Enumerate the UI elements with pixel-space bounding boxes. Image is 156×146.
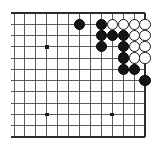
- white-stone[interactable]: [129, 41, 140, 52]
- star-point: [45, 45, 49, 49]
- white-stone[interactable]: [118, 19, 129, 30]
- star-point: [45, 113, 49, 117]
- black-stone[interactable]: [118, 64, 129, 75]
- black-stone[interactable]: [107, 30, 118, 41]
- black-stone[interactable]: [74, 19, 85, 30]
- white-stone[interactable]: [139, 41, 150, 52]
- black-stone[interactable]: [96, 19, 107, 30]
- black-stone[interactable]: [118, 30, 129, 41]
- white-stone[interactable]: [139, 30, 150, 41]
- white-stone[interactable]: [129, 52, 140, 63]
- black-stone[interactable]: [129, 64, 140, 75]
- white-stone[interactable]: [129, 19, 140, 30]
- go-diagram: [0, 0, 156, 146]
- white-stone[interactable]: [139, 19, 150, 30]
- star-point: [110, 113, 114, 117]
- white-stone[interactable]: [139, 52, 150, 63]
- black-stone[interactable]: [139, 75, 150, 86]
- black-stone[interactable]: [118, 52, 129, 63]
- white-stone[interactable]: [129, 30, 140, 41]
- black-stone[interactable]: [96, 30, 107, 41]
- white-stone[interactable]: [107, 19, 118, 30]
